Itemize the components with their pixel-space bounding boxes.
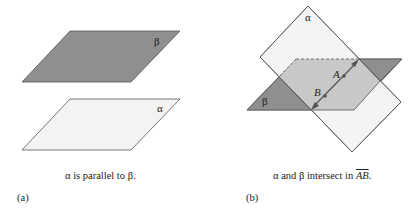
caption-b-period: . — [369, 170, 372, 181]
label-point-a: A — [333, 68, 340, 80]
caption-b-text: α and β intersect in — [273, 170, 353, 181]
label-beta-b: β — [262, 95, 268, 107]
label-beta-a: β — [154, 35, 160, 47]
panel-id-a: (a) — [17, 192, 29, 203]
caption-b: α and β intersect in AB. — [273, 170, 371, 181]
point-a — [342, 74, 346, 78]
point-b — [323, 94, 327, 98]
label-alpha-a: α — [157, 102, 163, 114]
caption-a: α is parallel to β. — [65, 170, 136, 181]
diagram-canvas — [0, 0, 419, 215]
caption-b-line: AB — [356, 170, 369, 181]
panel-id-b: (b) — [246, 192, 258, 203]
label-point-b: B — [314, 86, 321, 98]
label-alpha-b: α — [305, 11, 311, 23]
